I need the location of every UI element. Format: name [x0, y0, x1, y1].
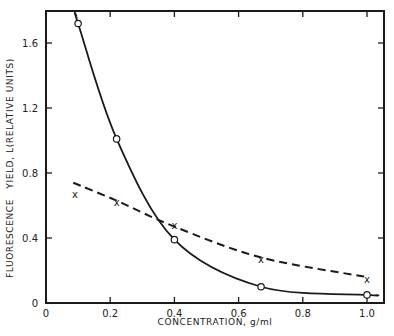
plot-border: [46, 11, 384, 303]
fluorescence-yield-chart: 00.20.40.60.81.0 00.40.81.21.6 xxxxx CON…: [0, 0, 394, 336]
x-marker: x: [364, 274, 370, 285]
data-curves: [73, 13, 378, 296]
x-marker: x: [72, 189, 78, 200]
x-tick-label: 0.8: [295, 308, 311, 319]
y-tick-label: 0.8: [22, 168, 38, 179]
circle-marker: [75, 20, 81, 26]
solid-curve: [75, 13, 379, 296]
y-tick-label: 1.2: [22, 103, 38, 114]
y-tick-label: 1.6: [22, 38, 38, 49]
x-tick-label: 0: [43, 308, 49, 319]
data-markers: xxxxx: [72, 20, 370, 298]
circle-marker: [364, 292, 370, 298]
circle-marker: [258, 284, 264, 290]
y-axis-title: FLUORESCENCE YIELD, L(RELATIVE UNITS): [5, 58, 15, 278]
x-tick-label: 0.2: [102, 308, 118, 319]
x-axis-title: CONCENTRATION, g/ml: [158, 317, 273, 327]
y-axis-ticks: 00.40.81.21.6: [22, 38, 384, 309]
x-tick-label: 1.0: [359, 308, 375, 319]
y-tick-label: 0: [32, 298, 38, 309]
x-marker: x: [114, 197, 120, 208]
plot-frame: [46, 11, 384, 303]
x-marker: x: [258, 254, 264, 265]
circle-marker: [113, 136, 119, 142]
x-axis-ticks: 00.20.40.60.81.0: [43, 11, 375, 319]
x-marker: x: [171, 220, 177, 231]
circle-marker: [171, 236, 177, 242]
y-tick-label: 0.4: [22, 233, 38, 244]
